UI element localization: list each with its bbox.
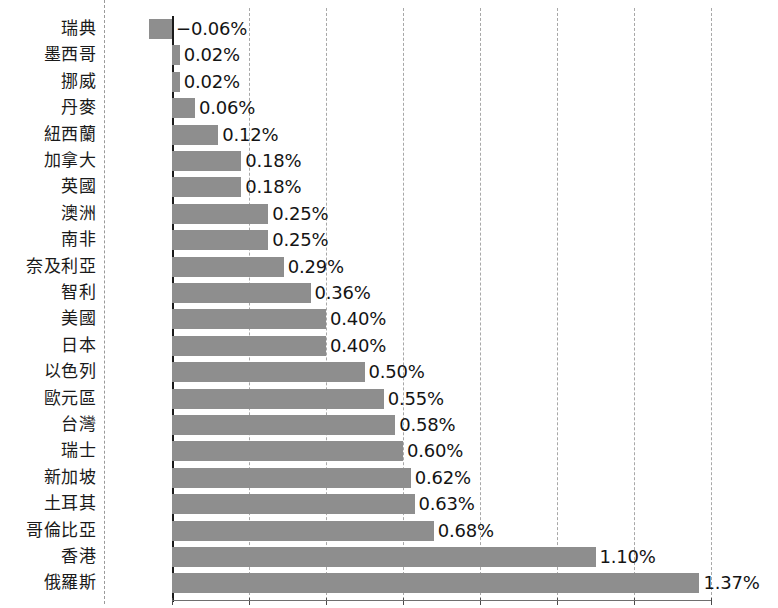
bar: [172, 257, 284, 277]
bar: [172, 204, 268, 224]
bar-value-label: 0.36%: [315, 284, 371, 302]
x-axis-baseline: [172, 600, 711, 601]
bar: [172, 389, 384, 409]
bar: [149, 19, 172, 39]
bar: [172, 283, 311, 303]
bar-value-label: 0.55%: [388, 390, 444, 408]
bar-value-label: 0.02%: [184, 46, 240, 64]
bar: [172, 230, 268, 250]
bar-value-label: 0.58%: [399, 416, 455, 434]
bar-value-label: 0.40%: [330, 337, 386, 355]
gridline-1.2: [634, 8, 635, 600]
bar-value-label: 1.10%: [600, 548, 656, 566]
bar: [172, 573, 699, 593]
bar-chart: 瑞典墨西哥挪威丹麥紐西蘭加拿大英國澳洲南非奈及利亞智利美國日本以色列歐元區台灣瑞…: [0, 0, 778, 608]
bar-value-label: 0.68%: [438, 522, 494, 540]
bar: [172, 415, 395, 435]
bar: [172, 309, 326, 329]
bar: [172, 468, 411, 488]
gridline-1: [557, 8, 558, 600]
bar-value-label: 0.02%: [184, 73, 240, 91]
bar: [172, 98, 195, 118]
x-tick-1.4: [711, 598, 712, 605]
bar: [172, 45, 180, 65]
bar-value-label: 0.63%: [419, 495, 475, 513]
bar: [172, 547, 596, 567]
gridline-1.4: [711, 8, 712, 600]
bar-value-label: 0.40%: [330, 310, 386, 328]
bar-value-label: −0.06%: [176, 20, 247, 38]
gridline-0.8: [480, 8, 481, 600]
bar: [172, 521, 434, 541]
bar: [172, 177, 241, 197]
bar-value-label: 0.29%: [288, 258, 344, 276]
bar-value-label: 0.25%: [272, 231, 328, 249]
bar: [172, 151, 241, 171]
bar: [172, 125, 218, 145]
bar-value-label: 0.18%: [245, 152, 301, 170]
bar: [172, 362, 365, 382]
bar-value-label: 0.18%: [245, 178, 301, 196]
bar: [172, 72, 180, 92]
bar-value-label: 1.37%: [703, 574, 759, 592]
plot-area: −0.06%0.02%0.02%0.06%0.12%0.18%0.18%0.25…: [0, 0, 778, 608]
bar-value-label: 0.06%: [199, 99, 255, 117]
bar-value-label: 0.25%: [272, 205, 328, 223]
bar: [172, 336, 326, 356]
bar-value-label: 0.12%: [222, 126, 278, 144]
bar: [172, 494, 415, 514]
bar-value-label: 0.62%: [415, 469, 471, 487]
bar: [172, 441, 403, 461]
bar-value-label: 0.50%: [369, 363, 425, 381]
bar-value-label: 0.60%: [407, 442, 463, 460]
